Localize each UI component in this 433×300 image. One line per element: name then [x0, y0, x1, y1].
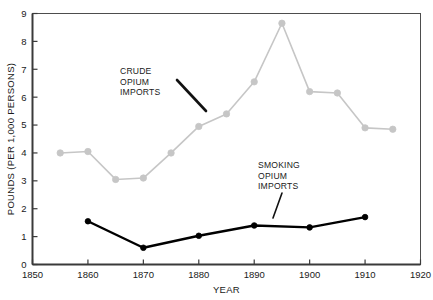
data-point-marker: [140, 175, 146, 181]
data-point-marker: [85, 218, 91, 224]
data-point-marker: [112, 176, 118, 182]
data-point-marker: [223, 111, 229, 117]
data-point-marker: [334, 90, 340, 96]
y-tick-label: 6: [21, 92, 26, 103]
y-tick-label: 1: [21, 231, 26, 242]
data-point-marker: [362, 214, 368, 220]
annotation-text-line: IMPORTS: [120, 87, 160, 97]
data-point-marker: [196, 123, 202, 129]
y-tick-label: 2: [21, 203, 26, 214]
y-tick-label: 9: [21, 8, 26, 19]
chart-background: [0, 0, 433, 300]
x-tick-label: 1870: [133, 269, 154, 280]
data-point-marker: [390, 126, 396, 132]
data-point-marker: [307, 225, 313, 231]
data-point-marker: [141, 245, 147, 251]
x-tick-label: 1910: [355, 269, 376, 280]
x-tick-label: 1920: [410, 269, 431, 280]
data-point-marker: [168, 150, 174, 156]
opium-imports-line-chart: 0123456789 18501860187018801890190019101…: [0, 0, 433, 300]
chart-figure: 0123456789 18501860187018801890190019101…: [0, 0, 433, 300]
annotation-text-line: OPIUM: [120, 77, 149, 87]
x-tick-label: 1860: [77, 269, 98, 280]
x-axis-title: YEAR: [213, 284, 240, 295]
data-point-marker: [306, 88, 312, 94]
data-point-marker: [251, 79, 257, 85]
annotation-text-line: OPIUM: [258, 171, 287, 181]
y-tick-label: 8: [21, 36, 26, 47]
y-tick-label: 3: [21, 175, 26, 186]
x-tick-label: 1900: [299, 269, 320, 280]
data-point-marker: [196, 233, 202, 239]
data-point-marker: [57, 150, 63, 156]
annotation-text-line: CRUDE: [120, 66, 152, 76]
data-point-marker: [362, 125, 368, 131]
y-axis-title: POUNDS (PER 1,000 PERSONS): [5, 63, 16, 215]
y-tick-label: 7: [21, 64, 26, 75]
data-point-marker: [85, 148, 91, 154]
annotation-text-line: IMPORTS: [258, 181, 298, 191]
annotation-text-line: SMOKING: [258, 160, 300, 170]
y-tick-label: 4: [21, 147, 26, 158]
x-tick-label: 1890: [244, 269, 265, 280]
x-tick-label: 1880: [188, 269, 209, 280]
data-point-marker: [279, 20, 285, 26]
x-tick-label: 1850: [22, 269, 43, 280]
y-tick-label: 5: [21, 119, 26, 130]
data-point-marker: [251, 223, 257, 229]
